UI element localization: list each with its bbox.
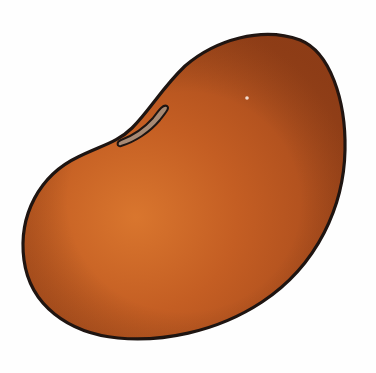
- specular-highlight: [245, 96, 249, 100]
- kidney-bean-graphic: [0, 0, 376, 373]
- bean-illustration: Kidney bean illustration: [0, 0, 376, 373]
